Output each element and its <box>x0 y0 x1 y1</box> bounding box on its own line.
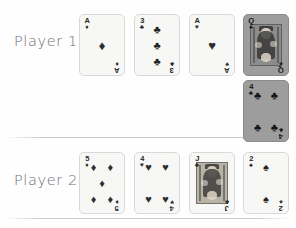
card-suit-spades-icon: ♠ <box>276 198 286 205</box>
card-suit-diamonds-icon: ♦ <box>82 24 92 31</box>
card-index-tl: 4♥ <box>137 155 147 169</box>
card-queen-of-spades[interactable]: Q♠Q♠ <box>243 14 289 76</box>
card-suit-diamonds-icon: ♦ <box>112 60 122 67</box>
player-1-label: Player 1 <box>14 33 78 49</box>
court-accent-a <box>201 180 208 186</box>
pip-clubs: ♣ <box>254 121 261 132</box>
card-index-br: 4♣ <box>276 126 286 140</box>
card-face: ♣♣♣3♣3♣ <box>135 15 179 75</box>
card-face: ♦♦♦♦♦5♦5♦ <box>80 153 124 213</box>
card-index-tl: 3♣ <box>137 17 147 31</box>
card-index-br: A♦ <box>112 60 122 74</box>
card-index-br: A♥ <box>222 60 232 74</box>
card-four-of-hearts[interactable]: ♥♥♥♥4♥4♥ <box>134 152 180 214</box>
card-face: ♥♥♥♥4♥4♥ <box>135 153 179 213</box>
card-index-tl: A♦ <box>82 17 92 31</box>
pip-diamonds: ♦ <box>99 178 105 189</box>
card-index-tl: 5♦ <box>82 155 92 169</box>
pip-clubs: ♣ <box>153 40 160 51</box>
pip-hearts: ♥ <box>208 39 216 52</box>
card-suit-hearts-icon: ♥ <box>192 24 202 31</box>
pip-hearts: ♥ <box>145 193 152 204</box>
pip-diamonds: ♦ <box>99 39 106 52</box>
court-accent-a <box>255 42 262 48</box>
card-ace-of-hearts[interactable]: ♥A♥A♥ <box>189 14 235 76</box>
card-suit-clubs-icon: ♣ <box>276 126 286 133</box>
card-three-of-clubs[interactable]: ♣♣♣3♣3♣ <box>134 14 180 76</box>
pip-spades: ♠ <box>263 193 269 204</box>
card-index-br: 3♣ <box>167 60 177 74</box>
card-suit-hearts-icon: ♥ <box>167 198 177 205</box>
card-index-tl: J♣ <box>192 155 202 169</box>
card-index-tl: A♥ <box>192 17 202 31</box>
card-jack-of-clubs[interactable]: J♣J♣ <box>189 152 235 214</box>
pip-spades: ♠ <box>263 162 269 173</box>
card-index-tl: 4♣ <box>246 83 256 97</box>
court-staff-r <box>277 27 280 62</box>
card-face: ♦A♦A♦ <box>80 15 124 75</box>
pip-clubs: ♣ <box>271 90 278 101</box>
card-suit-clubs-icon: ♣ <box>137 24 147 31</box>
card-index-tl: Q♠ <box>246 17 256 31</box>
card-index-br: Q♠ <box>276 60 286 74</box>
card-suit-spades-icon: ♠ <box>246 162 256 169</box>
row-divider-bottom <box>6 218 290 219</box>
pip-hearts: ♥ <box>162 162 169 173</box>
court-mirror-head <box>261 53 271 62</box>
card-face: ♣♣♣♣4♣4♣ <box>244 81 288 141</box>
card-suit-clubs-icon: ♣ <box>246 90 256 97</box>
court-staff-r <box>223 165 226 200</box>
pip-diamonds: ♦ <box>108 162 114 173</box>
card-suit-hearts-icon: ♥ <box>137 162 147 169</box>
card-ace-of-diamonds[interactable]: ♦A♦A♦ <box>79 14 125 76</box>
card-suit-hearts-icon: ♥ <box>222 60 232 67</box>
card-suit-clubs-icon: ♣ <box>167 60 177 67</box>
card-suit-clubs-icon: ♣ <box>192 162 202 169</box>
card-index-tl: 2♠ <box>246 155 256 169</box>
court-mirror-head <box>207 191 217 200</box>
card-two-of-spades[interactable]: ♠♠2♠2♠ <box>243 152 289 214</box>
player-2-label: Player 2 <box>14 172 78 188</box>
card-suit-clubs-icon: ♣ <box>222 198 232 205</box>
card-face: Q♠Q♠ <box>244 15 288 75</box>
card-five-of-diamonds[interactable]: ♦♦♦♦♦5♦5♦ <box>79 152 125 214</box>
pip-clubs: ♣ <box>153 55 160 66</box>
card-face: ♥A♥A♥ <box>190 15 234 75</box>
card-index-br: 2♠ <box>276 198 286 212</box>
card-four-of-clubs[interactable]: ♣♣♣♣4♣4♣ <box>243 80 289 142</box>
card-table: Player 1 Player 2 ♦A♦A♦ ♣♣♣3♣3♣ ♥A♥A♥ Q♠… <box>0 0 296 228</box>
card-face: ♠♠2♠2♠ <box>244 153 288 213</box>
card-index-br: 5♦ <box>112 198 122 212</box>
pip-diamonds: ♦ <box>91 193 97 204</box>
pip-clubs: ♣ <box>153 24 160 35</box>
card-index-br: J♣ <box>222 198 232 212</box>
card-suit-diamonds-icon: ♦ <box>82 162 92 169</box>
card-face: J♣J♣ <box>190 153 234 213</box>
card-suit-diamonds-icon: ♦ <box>112 198 122 205</box>
card-index-br: 4♥ <box>167 198 177 212</box>
